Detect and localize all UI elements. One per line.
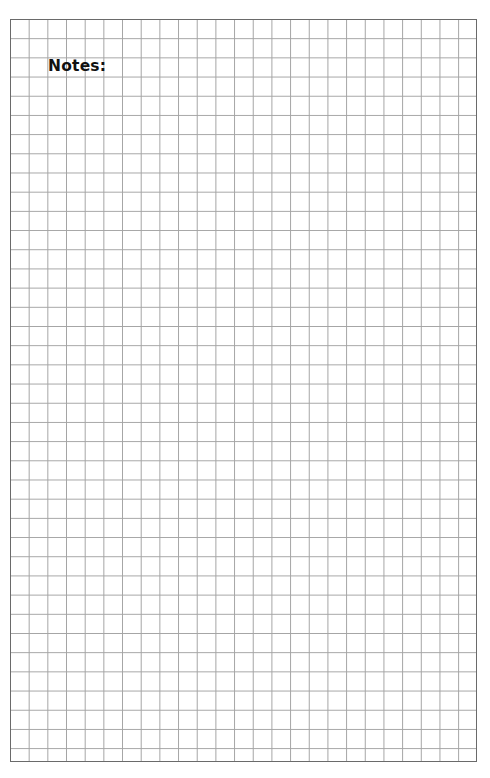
graph-paper-grid [10, 19, 477, 762]
notes-page: Notes: [0, 0, 490, 778]
notes-heading: Notes: [48, 56, 106, 76]
